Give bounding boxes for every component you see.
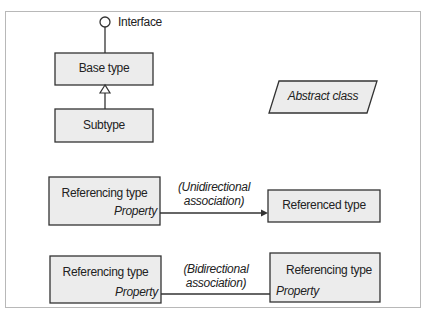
interface-circle-icon — [100, 17, 110, 27]
referencing-type-label-2: Referencing type — [50, 265, 161, 279]
property-label-1: Property — [105, 204, 157, 218]
referenced-type-label: Referenced type — [268, 198, 380, 212]
property-label-3: Property — [276, 284, 319, 298]
interface-label: Interface — [118, 15, 162, 29]
abstract-class-label: Abstract class — [272, 89, 374, 103]
unidirectional-label-line1: (Unidirectional — [168, 180, 260, 194]
referencing-type-label-3: Referencing type — [278, 263, 380, 277]
subtype-label: Subtype — [55, 118, 153, 132]
bidirectional-label-line2: association) — [168, 276, 264, 290]
bidirectional-label-line1: (Bidirectional — [168, 262, 264, 276]
inheritance-arrow-icon — [100, 85, 110, 93]
association-arrow-icon — [261, 210, 268, 217]
base-type-label: Base type — [55, 61, 153, 75]
property-label-2: Property — [105, 285, 158, 299]
referencing-type-label-1: Referencing type — [49, 186, 160, 200]
unidirectional-label-line2: association) — [168, 194, 260, 208]
